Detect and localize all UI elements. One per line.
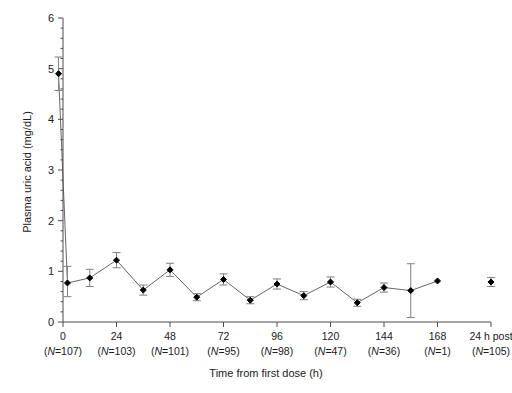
plot-area [55,57,495,317]
x-sample-size-label: (N=105) [472,345,510,357]
x-tick-label: 24 h post [469,330,512,342]
figure-root: Plasma uric acid (mg/dL) 0123456 0(N=107… [0,0,512,393]
y-axis-title-group: Plasma uric acid (mg/dL) [21,111,33,233]
x-tick-label: 24 [111,330,123,342]
data-point-marker [408,288,414,294]
x-sample-size-label: (N=36) [368,345,400,357]
x-sample-size-label: (N=47) [314,345,346,357]
plasma-uric-acid-chart: Plasma uric acid (mg/dL) 0123456 0(N=107… [0,0,512,393]
x-sample-size-label: (N=98) [261,345,293,357]
data-point-marker [64,280,70,286]
y-tick-label: 1 [48,265,54,277]
x-sample-size-label: (N=107) [44,345,82,357]
y-tick-group: 0123456 [48,12,63,328]
x-tick-label: 0 [60,330,66,342]
y-tick-label: 0 [48,316,54,328]
data-point-marker [488,279,494,285]
x-axis-title: Time from first dose (h) [209,367,322,379]
y-tick-label: 3 [48,164,54,176]
x-sample-size-label: (N=1) [424,345,451,357]
data-point-marker [56,71,62,77]
y-tick-label: 6 [48,12,54,24]
axes [63,18,491,322]
data-point-marker [87,275,93,281]
y-tick-label: 5 [48,63,54,75]
y-tick-label: 4 [48,113,54,125]
data-point-marker [435,278,441,284]
x-sample-size-label: (N=103) [97,345,135,357]
data-point-marker [381,285,387,291]
x-tick-label: 120 [322,330,340,342]
x-tick-label: 96 [271,330,283,342]
x-sample-size-label: (N=95) [207,345,239,357]
x-tick-label: 168 [429,330,447,342]
data-point-marker [274,281,280,287]
series-line [59,74,438,303]
y-tick-label: 2 [48,215,54,227]
x-axis-title-group: Time from first dose (h) [209,367,322,379]
x-tick-group: 0(N=107)24(N=103)48(N=101)72(N=95)96(N=9… [44,322,512,357]
x-sample-size-label: (N=101) [151,345,189,357]
x-tick-label: 48 [164,330,176,342]
y-axis-title: Plasma uric acid (mg/dL) [21,111,33,233]
x-tick-label: 144 [375,330,393,342]
x-tick-label: 72 [218,330,230,342]
data-point-marker [301,293,307,299]
